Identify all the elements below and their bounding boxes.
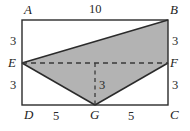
measure-label-inner-height: 3: [99, 79, 105, 92]
measure-label-left-lower: 3: [10, 79, 16, 92]
vertex-label-f: F: [170, 56, 178, 69]
measure-label-top: 10: [89, 3, 102, 16]
measure-label-bottom-left: 5: [53, 110, 59, 123]
measure-label-left-upper: 3: [10, 35, 16, 48]
vertex-label-b: B: [170, 3, 178, 16]
vertex-label-a: A: [24, 3, 32, 16]
vertex-label-e: E: [8, 56, 16, 69]
measure-label-bottom-right: 5: [128, 110, 134, 123]
vertex-label-c: C: [170, 108, 179, 121]
measure-label-right-lower: 3: [172, 79, 178, 92]
geometry-figure: A B C D E F G 10 3 3 3 3 3 5 5: [0, 0, 190, 131]
vertex-label-g: G: [90, 108, 99, 121]
vertex-label-d: D: [24, 108, 33, 121]
measure-label-right-upper: 3: [172, 35, 178, 48]
